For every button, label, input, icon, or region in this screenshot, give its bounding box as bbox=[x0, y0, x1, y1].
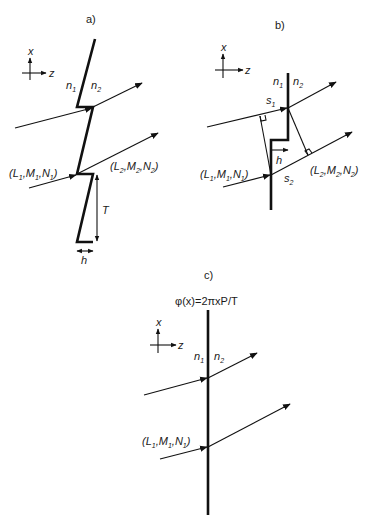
wavefront-perpendicular-2 bbox=[288, 108, 308, 155]
coordinate-axes-icon: x z bbox=[22, 45, 55, 80]
refracted-direction-cosines-label: (L2,M2,N2) bbox=[110, 160, 159, 174]
n1-label: n1 bbox=[273, 75, 283, 89]
x-axis-label: x bbox=[220, 41, 227, 53]
incident-ray-1 bbox=[144, 378, 207, 395]
z-axis-label: z bbox=[244, 64, 251, 76]
figure-canvas: a) x z T h n1 n2 (L1,M1,N1) (L2,M2,N2) b… bbox=[0, 0, 366, 522]
panel-a: a) x z T h n1 n2 (L1,M1,N1) (L2,M2,N2) bbox=[9, 13, 159, 266]
x-axis-label: x bbox=[27, 45, 34, 57]
n2-label: n2 bbox=[214, 350, 224, 364]
n1-label: n1 bbox=[194, 350, 204, 364]
incident-ray-1 bbox=[15, 108, 92, 128]
refracted-ray-2 bbox=[208, 404, 290, 447]
wavefront-perpendicular-1 bbox=[260, 116, 271, 175]
coordinate-axes-icon: x z bbox=[150, 316, 184, 353]
panel-b: b) x z h n1 n2 s1 s2 (L1,M1,N1) (L2,M2,N… bbox=[200, 19, 359, 210]
panel-a-label: a) bbox=[86, 13, 96, 25]
step-interface bbox=[271, 73, 288, 210]
n2-label: n2 bbox=[91, 79, 101, 93]
period-label: T bbox=[102, 204, 110, 216]
x-axis-label: x bbox=[155, 316, 162, 328]
n2-label: n2 bbox=[293, 75, 303, 89]
panel-c-label: c) bbox=[204, 269, 213, 281]
incident-direction-cosines-label: (L1,M1,N1) bbox=[9, 167, 58, 181]
right-angle-mark-1 bbox=[260, 115, 266, 121]
panel-b-label: b) bbox=[275, 19, 285, 31]
incident-ray-1 bbox=[207, 108, 287, 127]
s1-label: s1 bbox=[266, 94, 276, 108]
panel-c: c) φ(x)=2πxP/T x z n1 n2 (L1,M1,N1) bbox=[142, 269, 290, 515]
refracted-direction-cosines-label: (L2,M2,N2) bbox=[310, 164, 359, 178]
z-axis-label: z bbox=[48, 67, 55, 79]
coordinate-axes-icon: x z bbox=[215, 41, 251, 78]
z-axis-label: z bbox=[177, 339, 184, 351]
s2-label: s2 bbox=[284, 172, 294, 186]
incident-direction-cosines-label: (L1,M1,N1) bbox=[142, 435, 191, 449]
phase-function-label: φ(x)=2πxP/T bbox=[175, 295, 238, 307]
height-label: h bbox=[276, 154, 282, 166]
height-label: h bbox=[81, 254, 87, 266]
incident-direction-cosines-label: (L1,M1,N1) bbox=[200, 168, 249, 182]
sawtooth-grating-interface bbox=[77, 39, 95, 242]
n1-label: n1 bbox=[66, 79, 76, 93]
